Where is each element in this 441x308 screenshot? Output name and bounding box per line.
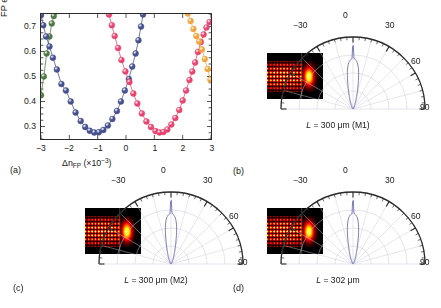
x-tick-0: 0 bbox=[117, 143, 135, 153]
panel-d-caption: L = 302 μm bbox=[268, 275, 408, 285]
panel-label-a: (a) bbox=[10, 165, 21, 175]
x-tick-2: 2 bbox=[174, 143, 192, 153]
x-tick--3: −3 bbox=[32, 143, 50, 153]
angle-tick-minus30-c: −30 bbox=[111, 175, 126, 185]
angle-tick-60-d: 60 bbox=[411, 211, 421, 221]
angle-tick-60-c: 60 bbox=[229, 211, 239, 221]
x-tick-3: 3 bbox=[203, 143, 221, 153]
polar-plot-b bbox=[240, 8, 440, 128]
y-tick-0.5: 0.5 bbox=[10, 71, 36, 81]
x-tick-1: 1 bbox=[146, 143, 164, 153]
angle-tick-90-b: 90 bbox=[420, 102, 430, 112]
angle-tick-0-c: 0 bbox=[161, 165, 166, 175]
angle-tick-0-b: 0 bbox=[343, 10, 348, 20]
panel-c-farfield-m2: −30 0 30 60 90 L = 300 μm (M2) (c) bbox=[58, 163, 258, 306]
angle-tick-minus30-b: −30 bbox=[293, 20, 308, 30]
panel-a-plot-area bbox=[40, 13, 212, 140]
panel-d-farfield-302um: −30 0 30 60 90 L = 302 μm (d) bbox=[240, 163, 440, 306]
x-tick--1: −1 bbox=[89, 143, 107, 153]
angle-tick-90-d: 90 bbox=[420, 257, 430, 267]
y-tick-0.3: 0.3 bbox=[10, 121, 36, 131]
panel-label-c: (c) bbox=[13, 283, 24, 293]
polar-plot-d bbox=[240, 163, 440, 283]
panel-c-caption: L = 300 μm (M2) bbox=[86, 275, 226, 285]
panel-b-caption: L = 300 μm (M1) bbox=[268, 120, 408, 130]
panel-a-fp-energy-ratio: FP energy ratio R 0.7 0.6 0.5 0.4 0.3 −3… bbox=[0, 0, 228, 185]
panel-b-farfield-m1: −30 0 30 60 90 L = 300 μm (M1) (b) bbox=[240, 8, 440, 151]
panel-a-y-axis-label: FP energy ratio R bbox=[0, 0, 9, 36]
x-tick--2: −2 bbox=[60, 143, 78, 153]
angle-tick-60-b: 60 bbox=[411, 56, 421, 66]
y-tick-0.4: 0.4 bbox=[10, 96, 36, 106]
y-tick-0.7: 0.7 bbox=[10, 21, 36, 31]
polar-plot-c bbox=[58, 163, 258, 283]
angle-tick-minus30-d: −30 bbox=[293, 175, 308, 185]
panel-a-curves bbox=[41, 14, 211, 139]
y-tick-0.6: 0.6 bbox=[10, 46, 36, 56]
angle-tick-0-d: 0 bbox=[343, 165, 348, 175]
angle-tick-30-b: 30 bbox=[385, 20, 395, 30]
angle-tick-30-c: 30 bbox=[203, 175, 213, 185]
panel-label-d: (d) bbox=[233, 283, 244, 293]
angle-tick-30-d: 30 bbox=[385, 175, 395, 185]
